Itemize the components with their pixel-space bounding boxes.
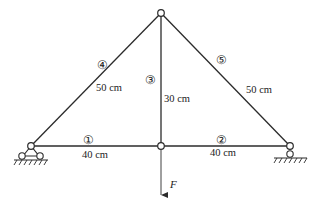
member-2-number: ② xyxy=(216,133,227,147)
member-4 xyxy=(31,13,161,146)
member-3-length: 30 cm xyxy=(164,93,190,104)
node-right xyxy=(287,143,294,150)
member-4-length: 50 cm xyxy=(96,82,122,93)
node-left xyxy=(28,143,35,150)
member-4-number: ④ xyxy=(97,58,108,72)
member-5-number: ⑤ xyxy=(216,53,227,67)
member-1-number: ① xyxy=(83,133,94,147)
member-5 xyxy=(161,13,290,146)
load-label: F xyxy=(169,178,177,190)
right-roller-support xyxy=(274,151,307,163)
member-3-number: ③ xyxy=(145,73,156,87)
node-middle xyxy=(158,143,165,150)
node-top xyxy=(158,10,165,17)
member-2-length: 40 cm xyxy=(210,147,236,158)
member-5-length: 50 cm xyxy=(246,84,272,95)
member-1-length: 40 cm xyxy=(82,149,108,160)
truss-diagram: ④ ③ ⑤ ① ② 50 cm 30 cm 50 cm 40 cm 40 cm … xyxy=(0,0,318,205)
